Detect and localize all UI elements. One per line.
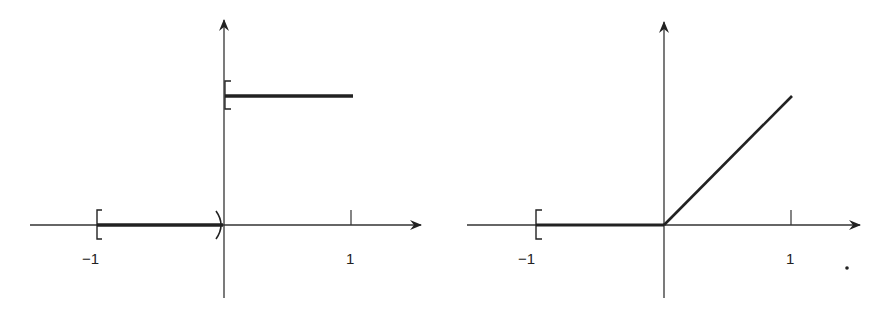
right-x-tick-label-neg1: −1: [518, 250, 535, 267]
right-x-tick-label-1: 1: [786, 250, 794, 267]
trailing-period-dot: [845, 266, 849, 270]
left-x-tick-label-neg1: −1: [82, 250, 99, 267]
figure-canvas: −1 1 −1 1: [0, 0, 879, 315]
right-panel-ramp-function: −1 1: [467, 22, 860, 298]
right-ramp-segment: [664, 96, 792, 225]
left-panel-step-function: −1 1: [30, 20, 421, 298]
left-x-tick-label-1: 1: [346, 250, 354, 267]
